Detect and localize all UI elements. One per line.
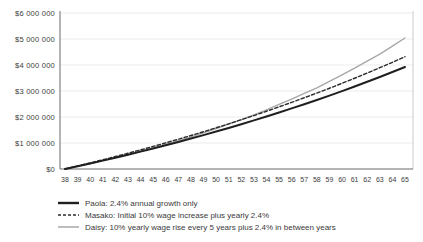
x-tick-label: 51 xyxy=(225,176,233,183)
x-tick-label: 65 xyxy=(401,176,409,183)
y-tick-label: $6 000 000 xyxy=(15,9,55,18)
series-line xyxy=(65,67,405,169)
series-line xyxy=(65,57,405,169)
line-chart-plot-area: $0$1 000 000$2 000 000$3 000 000$4 000 0… xyxy=(0,0,423,194)
x-tick-label: 56 xyxy=(288,176,296,183)
legend-item-daisy: Daisy: 10% yearly wage rise every 5 year… xyxy=(57,221,336,233)
x-tick-label: 52 xyxy=(237,176,245,183)
y-tick-label: $1 000 000 xyxy=(15,139,55,148)
wage-growth-comparison-chart: $0$1 000 000$2 000 000$3 000 000$4 000 0… xyxy=(0,0,423,242)
x-tick-label: 53 xyxy=(250,176,258,183)
x-tick-label: 58 xyxy=(313,176,321,183)
y-tick-label: $0 xyxy=(46,165,55,174)
x-tick-label: 64 xyxy=(389,176,397,183)
x-tick-label: 44 xyxy=(137,176,145,183)
legend-label-paola: Paola: 2.4% annual growth only xyxy=(85,199,198,208)
y-tick-label: $2 000 000 xyxy=(15,113,55,122)
legend-label-daisy: Daisy: 10% yearly wage rise every 5 year… xyxy=(85,223,336,232)
x-tick-label: 38 xyxy=(61,176,69,183)
x-tick-label: 40 xyxy=(86,176,94,183)
x-tick-label: 39 xyxy=(74,176,82,183)
x-tick-label: 47 xyxy=(174,176,182,183)
x-tick-label: 62 xyxy=(363,176,371,183)
x-tick-label: 57 xyxy=(300,176,308,183)
x-tick-label: 61 xyxy=(351,176,359,183)
x-tick-label: 63 xyxy=(376,176,384,183)
x-tick-label: 49 xyxy=(200,176,208,183)
x-tick-label: 54 xyxy=(263,176,271,183)
x-tick-label: 46 xyxy=(162,176,170,183)
x-tick-label: 50 xyxy=(212,176,220,183)
series-line xyxy=(65,38,405,169)
y-tick-label: $5 000 000 xyxy=(15,35,55,44)
x-tick-label: 45 xyxy=(149,176,157,183)
legend-line-sample-solid-gray xyxy=(57,222,80,232)
x-tick-label: 60 xyxy=(338,176,346,183)
x-tick-label: 48 xyxy=(187,176,195,183)
legend-line-sample-solid-black xyxy=(57,198,80,208)
x-tick-label: 41 xyxy=(99,176,107,183)
legend-item-masako: Masako: Initial 10% wage increase plus y… xyxy=(57,209,336,221)
y-tick-label: $3 000 000 xyxy=(15,87,55,96)
x-tick-label: 55 xyxy=(275,176,283,183)
legend-label-masako: Masako: Initial 10% wage increase plus y… xyxy=(85,211,269,220)
legend-item-paola: Paola: 2.4% annual growth only xyxy=(57,197,336,209)
chart-legend: Paola: 2.4% annual growth only Masako: I… xyxy=(57,197,336,233)
x-tick-label: 42 xyxy=(111,176,119,183)
y-tick-label: $4 000 000 xyxy=(15,61,55,70)
legend-line-sample-dashed-black xyxy=(57,210,80,220)
x-tick-label: 43 xyxy=(124,176,132,183)
x-tick-label: 59 xyxy=(326,176,334,183)
